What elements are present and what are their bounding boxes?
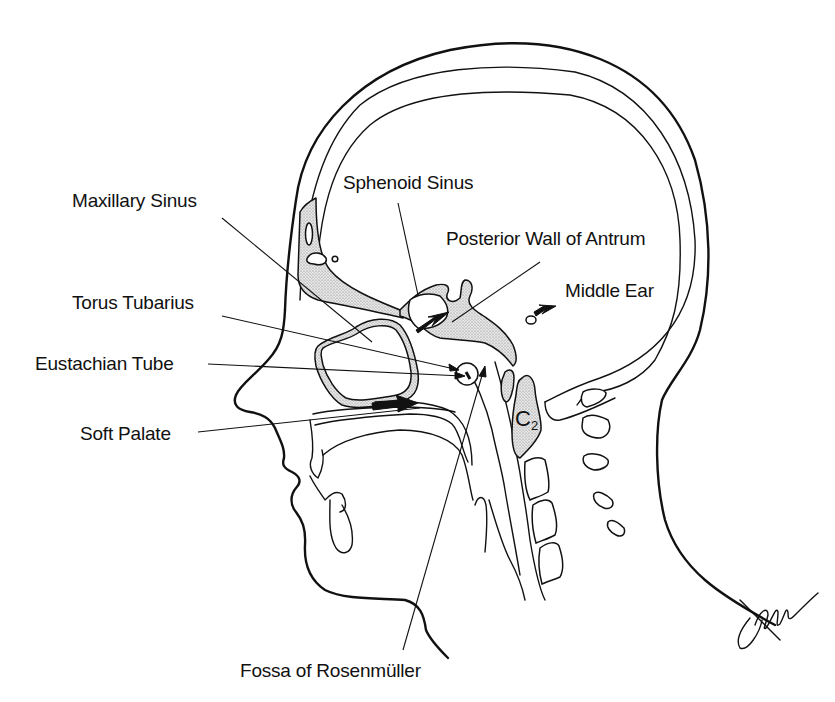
lower-teeth (310, 476, 346, 512)
label-torus-tubarius: Torus Tubarius (72, 293, 194, 312)
leader-lines (198, 203, 540, 650)
head-sagittal-diagram (0, 0, 835, 702)
frontal-small-cavity (332, 256, 338, 262)
larynx-line (489, 500, 525, 600)
spinous-process-3 (583, 454, 608, 470)
label-c2-vertebra: C2 (515, 408, 538, 432)
c4-body (532, 500, 556, 543)
atlas-anterior-arch (501, 370, 514, 402)
middle-ear-ring (526, 316, 536, 324)
label-middle-ear: Middle Ear (565, 281, 654, 300)
frontal-sinus-cavity (306, 223, 313, 245)
soft-palate-leader (198, 408, 420, 432)
upper-lip-teeth (310, 420, 323, 478)
tongue-outline (323, 430, 473, 500)
c3-body (525, 458, 549, 500)
c5-body (539, 543, 563, 584)
fossa-rosenmuller-arrowhead (479, 366, 486, 377)
spinous-process-4 (594, 492, 613, 508)
label-soft-palate: Soft Palate (80, 424, 171, 443)
epiglottis (475, 498, 487, 553)
vertebra-number: 2 (531, 418, 538, 433)
vertebra-letter: C (515, 406, 531, 431)
hard-palate-lower (315, 414, 468, 462)
label-sphenoid-sinus: Sphenoid Sinus (343, 173, 473, 192)
middle-ear-arrow-icon (534, 305, 556, 316)
frontal-sinus-cavity-2 (307, 253, 326, 265)
spinous-process-2 (582, 415, 610, 438)
label-posterior-wall-of-antrum: Posterior Wall of Antrum (446, 229, 645, 248)
label-maxillary-sinus: Maxillary Sinus (72, 191, 197, 210)
mandible-inner (330, 500, 353, 553)
pharyngeal-wall (466, 367, 520, 575)
sphenoid-sinus-leader (398, 203, 418, 295)
label-eustachian-tube: Eustachian Tube (35, 354, 174, 373)
maxillary-sinus-leader (222, 218, 372, 342)
artist-signature-icon (738, 593, 818, 649)
spinous-process-5 (607, 520, 624, 536)
label-fossa-of-rosenmuller: Fossa of Rosenmüller (240, 661, 421, 680)
